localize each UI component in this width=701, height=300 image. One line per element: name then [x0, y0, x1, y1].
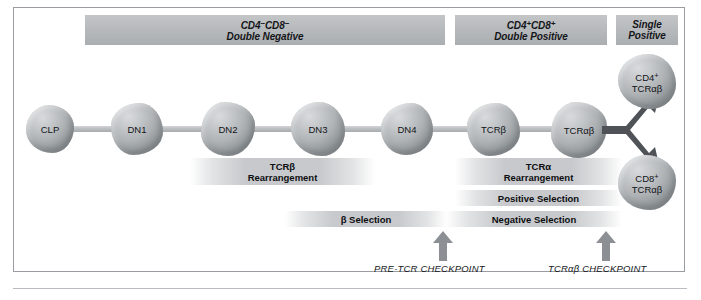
checkpoint-arrow-pre-tcr: [432, 231, 454, 261]
cell-label: TCRαβ: [564, 125, 594, 136]
checkpoint-arrow-tcrab: [595, 231, 617, 261]
cell-label: DN3: [308, 124, 327, 135]
process-bar-negative-selection: Negative Selection: [446, 211, 622, 227]
process-bar-tcrb-rearrangement: TCRβ Rearrangement: [190, 158, 375, 185]
cell-label: DN4: [397, 124, 416, 135]
superscript-minus-cd8: −: [285, 19, 290, 28]
process-label-line1: TCRβ: [270, 161, 295, 172]
stage-label-line2: Positive: [628, 30, 666, 42]
t-cell-development-figure: CD4−CD8− Double Negative CD4+CD8+ Double…: [0, 0, 701, 300]
superscript-plus: +: [654, 71, 658, 80]
stage-bar-double-positive: CD4+CD8+ Double Positive: [455, 15, 607, 45]
process-bar-positive-selection: Positive Selection: [455, 190, 622, 206]
stage-label-line1: CD4+CD8+: [507, 18, 556, 32]
bottom-divider: [13, 288, 687, 289]
stage-label-line1: CD4−CD8−: [241, 18, 290, 32]
checkpoint-label-tcrab: TCRαβ CHECKPOINT: [548, 263, 647, 274]
cell-label-line2: TCRαβ: [632, 184, 662, 195]
superscript-plus-cd8: +: [551, 19, 556, 28]
cell-label-line1: CD8+: [635, 171, 658, 184]
superscript-plus: +: [654, 172, 658, 181]
process-label-line1: Negative Selection: [492, 214, 576, 225]
stage-bar-single-positive: Single Positive: [616, 15, 678, 45]
stage-label-line2: Double Positive: [494, 31, 568, 43]
process-label-line2: Rearrangement: [248, 172, 318, 183]
process-bar-tcra-rearrangement: TCRα Rearrangement: [455, 158, 622, 185]
cell-label: DN2: [218, 124, 237, 135]
process-label-line1: TCRα: [526, 161, 551, 172]
process-label-line2: Rearrangement: [504, 172, 574, 183]
cell-label-line2: TCRαβ: [632, 83, 662, 94]
cell-label: TCRβ: [481, 124, 506, 135]
cell-label: CLP: [41, 124, 59, 135]
cell-dn1: DN1: [111, 103, 163, 155]
stage-label-line1: Single: [632, 19, 661, 31]
stage-bar-double-negative: CD4−CD8− Double Negative: [85, 15, 445, 45]
process-bar-beta-selection: β Selection: [285, 211, 447, 227]
cell-clp: CLP: [26, 105, 74, 153]
cell-label: DN1: [127, 124, 146, 135]
cell-tcrb: TCRβ: [467, 103, 520, 156]
cell-dn4: DN4: [381, 103, 433, 155]
cell-cd8-single-positive: CD8+ TCRαβ: [618, 155, 676, 210]
process-label-line1: Positive Selection: [498, 193, 579, 204]
cell-label-line1: CD4+: [635, 70, 658, 83]
process-label-line1: β Selection: [341, 214, 392, 225]
stage-label-line2: Double Negative: [227, 31, 304, 43]
checkpoint-label-pre-tcr: PRE-TCR CHECKPOINT: [374, 263, 485, 274]
